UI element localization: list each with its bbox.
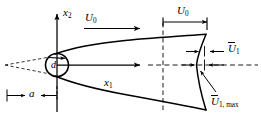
wake-lower-boundary bbox=[55, 76, 206, 110]
freestream-bracket-right bbox=[163, 18, 207, 31]
wake-upper-boundary bbox=[55, 34, 206, 54]
freestream-label-right: U0 bbox=[177, 5, 189, 18]
freestream-label-left: U0 bbox=[85, 12, 97, 25]
virtual-origin-wedge bbox=[5, 57, 50, 74]
deficit-max-leader bbox=[201, 71, 217, 92]
wake-diagram-figure: x2 U0 U0 d a x1 U1 U1, max bbox=[0, 0, 261, 129]
cylinder-diameter-label: d bbox=[51, 60, 56, 70]
diagram-canvas bbox=[0, 0, 261, 129]
virtual-origin-label: a bbox=[29, 88, 35, 99]
deficit-dimension-upper bbox=[186, 46, 224, 57]
deficit-label: U1 bbox=[228, 43, 240, 56]
x2-axis-label: x2 bbox=[63, 7, 72, 20]
deficit-max-label: U1, max bbox=[211, 96, 239, 109]
deficit-dimension-max bbox=[182, 60, 224, 71]
x1-axis-label: x1 bbox=[104, 77, 113, 90]
